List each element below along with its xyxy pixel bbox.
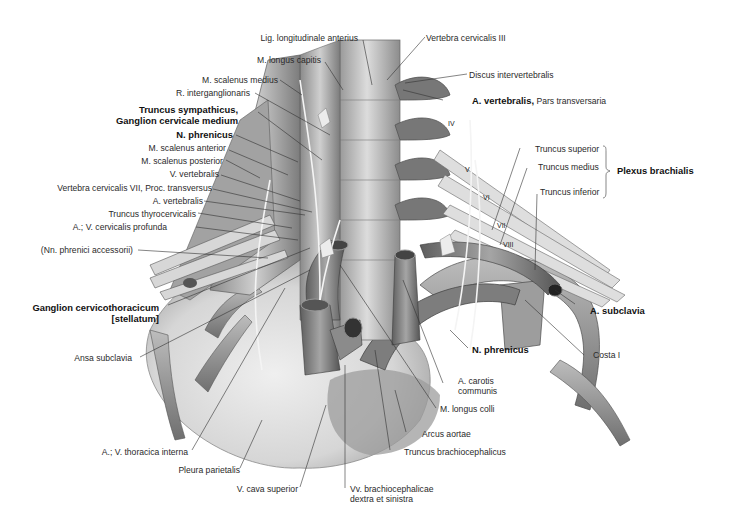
label-n-phrenicus-left: N. phrenicus [176, 130, 233, 140]
label-arcus-aortae: Arcus aortae [422, 429, 471, 439]
label-truncus-inferior: Truncus inferior [540, 187, 599, 197]
label-truncus-superior: Truncus superior [535, 144, 599, 154]
label-vertebra-cervicalis-vii: Vertebra cervicalis VII, Proc. transvers… [57, 183, 212, 193]
label-pleura-parietalis: Pleura parietalis [178, 465, 240, 475]
numeral-vi: VI [483, 194, 490, 201]
label-a-vertebralis: A. vertebralis [153, 196, 203, 206]
label-ansa-subclavia: Ansa subclavia [74, 353, 132, 363]
label-v-cava-superior: V. cava superior [237, 484, 298, 494]
label-a-carotis-communis: A. carotis communis [458, 376, 497, 396]
numeral-viii: VIII [503, 241, 514, 248]
label-m-longus-colli: M. longus colli [440, 404, 494, 414]
numeral-vii: VII [497, 222, 506, 229]
label-discus-intervertebralis: Discus intervertebralis [469, 70, 554, 80]
label-ganglion-stellatum: Ganglion cervicothoracicum [stellatum] [32, 302, 159, 324]
label-n-phrenicus-right: N. phrenicus [472, 345, 529, 355]
label-r-interganglionaris: R. interganglionaris [176, 88, 250, 98]
numeral-iv: IV [448, 120, 455, 127]
plexus-brace [603, 146, 610, 198]
label-lig-longitudinale-anterius: Lig. longitudinale anterius [261, 33, 358, 43]
label-truncus-medius: Truncus medius [538, 162, 599, 172]
label-truncus-thyrocervicalis: Truncus thyrocervicalis [108, 209, 196, 219]
label-pars-transversaria: Pars transversaria [534, 96, 606, 106]
label-m-scalenus-medius: M. scalenus medius [202, 75, 278, 85]
label-vertebra-cervicalis-iii: Vertebra cervicalis III [426, 33, 506, 43]
numeral-v: V [465, 166, 470, 173]
label-nn-phrenici-accessorii: (Nn. phrenici accessorii) [41, 245, 133, 255]
label-a-vertebralis-pars-transversaria: A. vertebralis, Pars transversaria [472, 96, 606, 106]
label-costa-i: Costa I [593, 350, 620, 360]
label-thoracica-interna: A.; V. thoracica interna [102, 447, 188, 457]
label-truncus-brachiocephalicus: Truncus brachiocephalicus [404, 447, 506, 457]
label-cervicalis-profunda: A.; V. cervicalis profunda [73, 222, 167, 232]
label-m-scalenus-anterior: M. scalenus anterior [149, 143, 226, 153]
label-v-vertebralis: V. vertebralis [170, 169, 219, 179]
label-a-vertebralis-bold: A. vertebralis, [472, 95, 534, 106]
label-truncus-sympathicus-ganglion-medium: Truncus sympathicus, Ganglion cervicale … [116, 104, 238, 126]
anatomy-figure: IV V VI VII VIII [0, 0, 730, 524]
label-a-subclavia: A. subclavia [590, 306, 645, 316]
label-m-longus-capitis: M. longus capitis [257, 55, 321, 65]
label-vv-brachiocephalicae: Vv. brachiocephalicae dextra et sinistra [350, 484, 433, 504]
anatomical-illustration: IV V VI VII VIII [0, 0, 730, 524]
label-plexus-brachialis: Plexus brachialis [617, 166, 694, 176]
label-m-scalenus-posterior: M. scalenus posterior [141, 156, 223, 166]
